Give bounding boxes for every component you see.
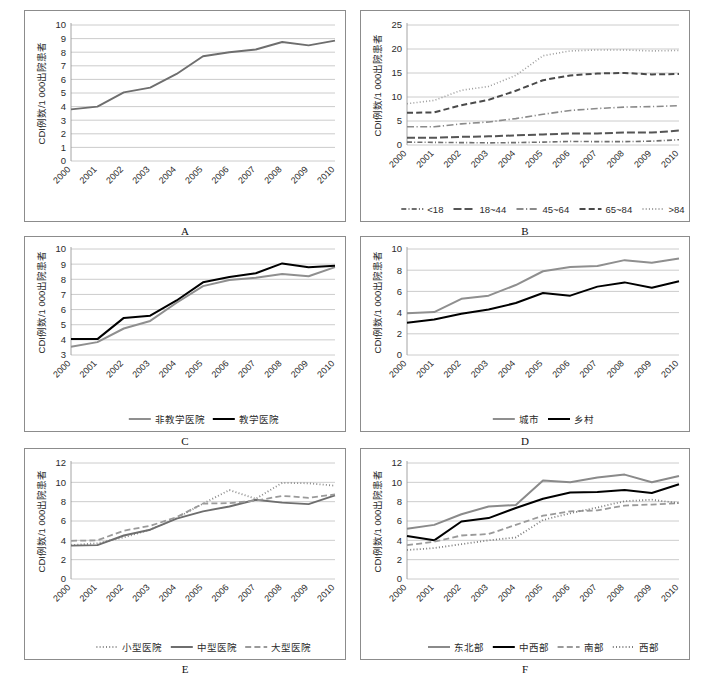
y-tick-label: 8 — [61, 274, 66, 285]
x-tick-label: 2010 — [315, 164, 336, 185]
panel-border-c: 345678910CDI例数/1 000出院患者2000200120022003… — [24, 236, 346, 432]
x-tick-label: 2006 — [210, 582, 231, 603]
legend-label: 大型医院 — [271, 642, 311, 653]
x-tick-label: 2001 — [78, 582, 99, 603]
x-tick-label: 2009 — [632, 582, 653, 603]
x-tick-label: 2006 — [550, 582, 571, 603]
y-tick-label: 2 — [61, 554, 66, 565]
x-tick-label: 2009 — [289, 582, 310, 603]
series-line — [407, 500, 679, 550]
y-tick-label: 9 — [61, 259, 66, 270]
chart-legend: 非教学医院教学医院 — [129, 414, 279, 425]
panel-border-d: 0246810CDI例数/1 000出院患者200020012002200320… — [360, 236, 690, 432]
legend-label: 城市 — [519, 414, 539, 425]
x-tick-label: 2010 — [659, 148, 680, 169]
y-tick-label: 4 — [61, 101, 66, 112]
x-tick-label: 2007 — [236, 358, 257, 379]
chart-svg-c: 345678910CDI例数/1 000出院患者2000200120022003… — [25, 237, 347, 433]
x-tick-label: 2000 — [51, 358, 72, 379]
series-line — [407, 503, 679, 545]
chart-svg-f: 024681012CDI例数/1 000出院患者2000200120022003… — [361, 449, 691, 661]
x-tick-label: 2005 — [183, 164, 204, 185]
chart-svg-a: 012345678910CDI例数/1 000出院患者2000200120022… — [25, 11, 347, 223]
y-tick-label: 2 — [61, 128, 66, 139]
x-tick-label: 2010 — [659, 582, 680, 603]
x-tick-label: 2001 — [78, 164, 99, 185]
x-tick-label: 2002 — [442, 582, 463, 603]
y-tick-label: 4 — [397, 307, 402, 318]
gridlines — [407, 249, 679, 355]
x-tick-label: 2008 — [605, 358, 626, 379]
panel-border-f: 024681012CDI例数/1 000出院患者2000200120022003… — [360, 448, 690, 660]
legend-label: 西部 — [639, 642, 659, 653]
x-tick-label: 2007 — [578, 148, 599, 169]
y-tick-label: 6 — [61, 515, 66, 526]
series-group — [407, 475, 679, 550]
y-tick-label: 6 — [397, 515, 402, 526]
y-tick-label: 2 — [397, 554, 402, 565]
y-tick-label: 25 — [391, 19, 402, 30]
chart-legend: <1818~4445~6465~84>84 — [401, 204, 684, 215]
x-tick-label: 2004 — [157, 164, 178, 185]
y-tick-label: 4 — [61, 535, 66, 546]
y-axis-title: CDI例数/1 000出院患者 — [372, 470, 383, 573]
y-tick-labels: 024681012 — [55, 457, 66, 584]
y-tick-label: 5 — [61, 87, 66, 98]
x-tick-label: 2005 — [523, 582, 544, 603]
legend-label: 18~44 — [480, 204, 507, 215]
x-tick-label: 2009 — [289, 358, 310, 379]
y-tick-label: 3 — [61, 115, 66, 126]
chart-svg-e: 024681012CDI例数/1 000出院患者2000200120022003… — [25, 449, 347, 661]
legend-label: 教学医院 — [239, 414, 279, 425]
y-tick-label: 5 — [61, 319, 66, 330]
series-group — [71, 41, 335, 110]
y-tick-labels: 345678910 — [55, 243, 66, 360]
y-tick-label: 7 — [61, 289, 66, 300]
y-tick-labels: 0510152025 — [391, 19, 402, 150]
legend-label: 东北部 — [454, 642, 484, 653]
y-tick-label: 12 — [391, 457, 402, 468]
y-tick-label: 20 — [391, 43, 402, 54]
x-tick-labels: 2000200120022003200420052006200720082009… — [387, 582, 680, 603]
x-tick-label: 2008 — [605, 582, 626, 603]
x-tick-label: 2000 — [387, 582, 408, 603]
series-line — [407, 73, 679, 113]
series-line — [407, 131, 679, 138]
legend-label: <18 — [427, 204, 443, 215]
x-tick-label: 2002 — [104, 164, 125, 185]
y-tick-label: 5 — [397, 115, 402, 126]
x-tick-label: 2002 — [104, 582, 125, 603]
y-tick-label: 4 — [397, 535, 402, 546]
x-tick-label: 2004 — [157, 582, 178, 603]
x-tick-label: 2002 — [442, 148, 463, 169]
y-tick-label: 6 — [61, 304, 66, 315]
panel-border-e: 024681012CDI例数/1 000出院患者2000200120022003… — [24, 448, 346, 660]
x-tick-label: 2010 — [315, 582, 336, 603]
legend-label: 中西部 — [519, 642, 549, 653]
chart-legend: 城市乡村 — [493, 414, 594, 425]
y-tick-label: 6 — [61, 74, 66, 85]
x-tick-label: 2007 — [236, 164, 257, 185]
y-tick-label: 10 — [391, 91, 402, 102]
legend-label: 乡村 — [574, 414, 594, 425]
y-tick-label: 8 — [61, 47, 66, 58]
x-tick-label: 2003 — [130, 582, 151, 603]
series-line — [407, 281, 679, 322]
x-tick-label: 2003 — [469, 148, 490, 169]
series-group — [407, 259, 679, 323]
series-line — [407, 140, 679, 143]
y-tick-label: 10 — [55, 19, 66, 30]
x-tick-label: 2000 — [51, 582, 72, 603]
y-tick-label: 8 — [397, 265, 402, 276]
panel-letter-c: C — [24, 435, 346, 447]
x-tick-labels: 2000200120022003200420052006200720082009… — [387, 148, 680, 169]
x-tick-label: 2005 — [183, 358, 204, 379]
chart-legend: 小型医院中型医院大型医院 — [96, 642, 311, 653]
x-tick-label: 2009 — [632, 358, 653, 379]
figure-panel-grid: 012345678910CDI例数/1 000出院患者2000200120022… — [0, 0, 703, 675]
panel-letter-d: D — [360, 435, 690, 447]
y-tick-labels: 0246810 — [391, 243, 402, 360]
x-tick-label: 2009 — [289, 164, 310, 185]
x-tick-label: 2005 — [523, 358, 544, 379]
x-tick-label: 2000 — [387, 358, 408, 379]
